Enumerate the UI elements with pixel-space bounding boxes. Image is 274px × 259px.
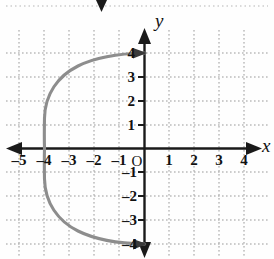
- ytick-label-1: 1: [128, 117, 136, 133]
- y-axis: [138, 28, 151, 258]
- graph-figure: –5 –4 –3 –2 –1 O 1 2 3 4 4 3 2 1 –1 –2 –…: [0, 0, 274, 259]
- x-axis-label: x: [261, 135, 271, 156]
- x-axis-right-arrowhead: [246, 142, 262, 155]
- xtick-label-neg3: –3: [61, 152, 77, 168]
- ytick-label-neg3: –3: [121, 212, 137, 228]
- y-axis-label: y: [153, 10, 164, 31]
- xtick-label-2: 2: [190, 152, 198, 168]
- xtick-label-neg4: –4: [36, 152, 53, 168]
- ytick-label-4: 4: [128, 45, 136, 61]
- xtick-label-3: 3: [215, 152, 223, 168]
- ytick-label-2: 2: [128, 93, 136, 109]
- ytick-label-neg2: –2: [121, 188, 137, 204]
- y-axis-top-arrowhead: [138, 28, 151, 44]
- xtick-label-4: 4: [240, 152, 248, 168]
- xtick-label-neg5: –5: [11, 152, 27, 168]
- ytick-label-neg1: –1: [121, 164, 137, 180]
- coordinate-plane-svg: –5 –4 –3 –2 –1 O 1 2 3 4 4 3 2 1 –1 –2 –…: [0, 0, 274, 259]
- ytick-label-neg4: –4: [121, 236, 138, 252]
- xtick-label-1: 1: [165, 152, 173, 168]
- ytick-label-3: 3: [128, 69, 136, 85]
- xtick-label-neg2: –2: [86, 152, 102, 168]
